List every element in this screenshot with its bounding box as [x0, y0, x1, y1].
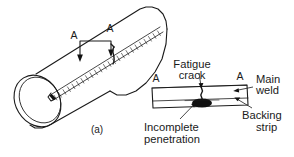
incomplete-penetration-label-line1: Incomplete — [144, 121, 199, 133]
pipe-weld-figure: A A (a) A A — [0, 0, 294, 157]
backing-strip-leader — [237, 99, 252, 108]
main-weld-label-line2: weld — [255, 84, 279, 96]
figure-caption: (a) — [91, 124, 103, 135]
weld-bead-surface — [152, 85, 247, 88]
section-a-right: A — [236, 70, 243, 82]
incomplete-penetration-label-line2: penetration — [144, 133, 200, 145]
figure-container: A A (a) A A — [0, 0, 294, 157]
section-a-left: A — [152, 72, 159, 84]
section-arrow-left — [77, 55, 83, 63]
pipe-crack-mark — [113, 47, 115, 64]
seam-weld-rail-lower — [55, 32, 163, 99]
backing-strip-label-line2: strip — [256, 121, 277, 133]
fatigue-crack-leader-arrow — [199, 83, 204, 88]
pipe-section-a-right: A — [106, 22, 113, 34]
section-detail-view: A A — [144, 58, 282, 145]
main-weld-leader-arrow — [233, 88, 239, 92]
pipe-section-a-left: A — [70, 29, 77, 41]
fatigue-crack-label-line2: crack — [179, 69, 206, 81]
pipe-bottom-edge — [30, 91, 110, 128]
pipe-isometric-view: A A (a) — [5, 7, 167, 135]
pipe-open-end-inner — [11, 69, 69, 130]
seam-weld-rail-upper — [52, 27, 160, 94]
backing-strip-label-line1: Backing — [242, 109, 282, 121]
pipe-far-end-arc — [110, 29, 167, 95]
